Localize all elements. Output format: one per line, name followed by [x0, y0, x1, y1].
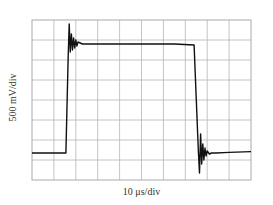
- x-axis-label: 10 μs/div: [32, 186, 251, 197]
- oscilloscope-plot: [0, 0, 273, 205]
- y-axis-label: 500 mV/div: [7, 58, 18, 138]
